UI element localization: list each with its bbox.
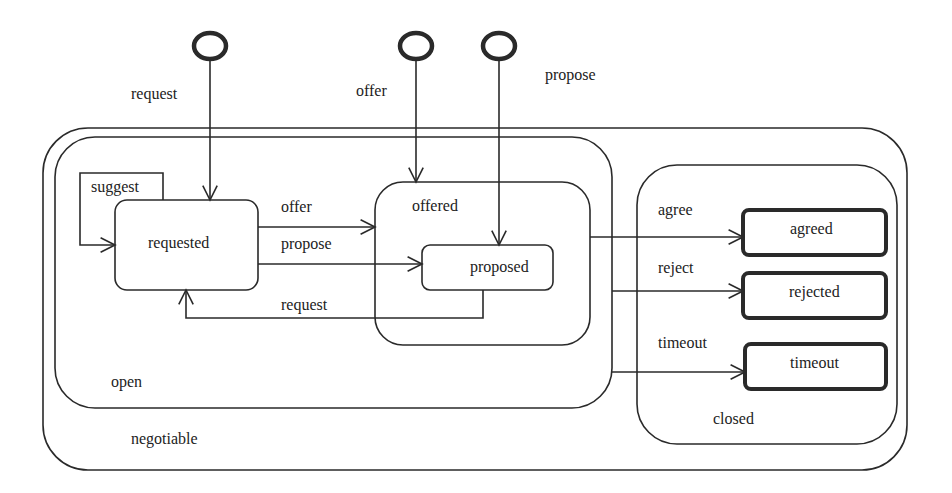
statechart-diagram: negotiable open offered closed requested…: [0, 0, 952, 493]
initial-offer-icon: [400, 33, 432, 59]
initial-propose-icon: [483, 33, 515, 59]
proposed-label: proposed: [470, 258, 529, 276]
rejected-label: rejected: [789, 283, 840, 301]
open-label: open: [111, 373, 142, 391]
initial-request-icon: [194, 33, 226, 59]
request-back-transition[interactable]: [186, 290, 483, 318]
offered-label: offered: [412, 197, 458, 214]
initial-propose-label: propose: [545, 66, 596, 84]
requested-label: requested: [148, 234, 209, 252]
offer-label: offer: [281, 198, 312, 215]
agree-label: agree: [658, 201, 693, 219]
initial-request-label: request: [131, 85, 178, 103]
negotiable-label: negotiable: [131, 430, 198, 448]
suggest-label: suggest: [91, 178, 140, 196]
initial-offer-label: offer: [356, 82, 387, 99]
timeout-state-label: timeout: [790, 354, 839, 371]
request-back-label: request: [281, 296, 328, 314]
negotiable-state[interactable]: [43, 128, 907, 470]
closed-label: closed: [713, 410, 754, 427]
timeout-label: timeout: [658, 334, 707, 351]
propose-label: propose: [281, 235, 332, 253]
reject-label: reject: [658, 259, 694, 277]
agreed-label: agreed: [790, 220, 833, 238]
